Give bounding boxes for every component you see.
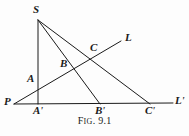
point-label-c: C xyxy=(90,42,97,53)
point-label-l: L xyxy=(125,32,132,43)
point-label-b: B xyxy=(60,58,67,69)
point-label-s: S xyxy=(33,4,39,15)
point-label-text: B xyxy=(60,57,67,69)
point-label-p: P xyxy=(4,96,11,107)
caption-separator: . xyxy=(93,115,96,126)
point-label-text: P xyxy=(4,95,11,107)
segment-s-to-c-prime xyxy=(38,20,150,104)
caption-number: 9.1 xyxy=(98,115,111,126)
point-label-text: C xyxy=(90,41,97,53)
point-label-text: L xyxy=(125,31,132,43)
point-label-lp: L' xyxy=(175,95,185,106)
point-label-text: L xyxy=(175,94,182,106)
prime-mark: ' xyxy=(182,95,185,106)
caption-prefix-rest: IG xyxy=(84,117,93,126)
figure-caption: FIG. 9.1 xyxy=(0,115,189,126)
point-label-text: A xyxy=(27,72,34,84)
point-label-text: S xyxy=(33,3,39,15)
figure-container: SLCBAPA'B'C'L' FIG. 9.1 xyxy=(0,0,189,136)
segment-s-to-b-prime xyxy=(38,20,100,104)
point-label-a: A xyxy=(27,73,34,84)
